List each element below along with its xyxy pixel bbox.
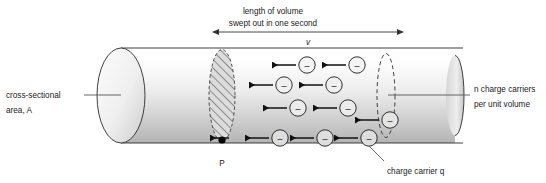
n-carriers-label-line2: per unit volume <box>474 100 530 109</box>
carrier-minus-sign: – <box>354 61 359 71</box>
point-p-label: P <box>219 159 225 168</box>
cylinder-body-fill <box>121 48 455 143</box>
cross-section-label-line2: area, A <box>6 106 32 115</box>
current-in-conductor-diagram: – – – – – – – <box>0 0 546 183</box>
cross-section-ellipse <box>209 50 235 142</box>
carrier-minus-sign: – <box>277 134 282 144</box>
swept-length-label-line2: swept out in one second <box>229 19 318 28</box>
carrier-minus-sign: – <box>331 81 336 91</box>
carrier-minus-sign: – <box>304 61 309 71</box>
cross-section-label-line1: cross-sectional <box>6 91 61 100</box>
carrier-minus-sign: – <box>295 104 300 114</box>
charge-carrier-label: charge carrier q <box>387 167 445 176</box>
conductor-cylinder <box>97 48 464 143</box>
carrier-minus-sign: – <box>345 104 350 114</box>
carrier-minus-sign: – <box>322 134 327 144</box>
cylinder-left-cap <box>97 48 145 143</box>
n-carriers-label-line1: n charge carriers <box>474 85 535 94</box>
carrier-minus-sign: – <box>366 134 371 144</box>
carrier-minus-sign: – <box>387 116 392 126</box>
carrier-minus-sign: – <box>281 81 286 91</box>
swept-length-label-line1: length of volume <box>243 7 304 16</box>
